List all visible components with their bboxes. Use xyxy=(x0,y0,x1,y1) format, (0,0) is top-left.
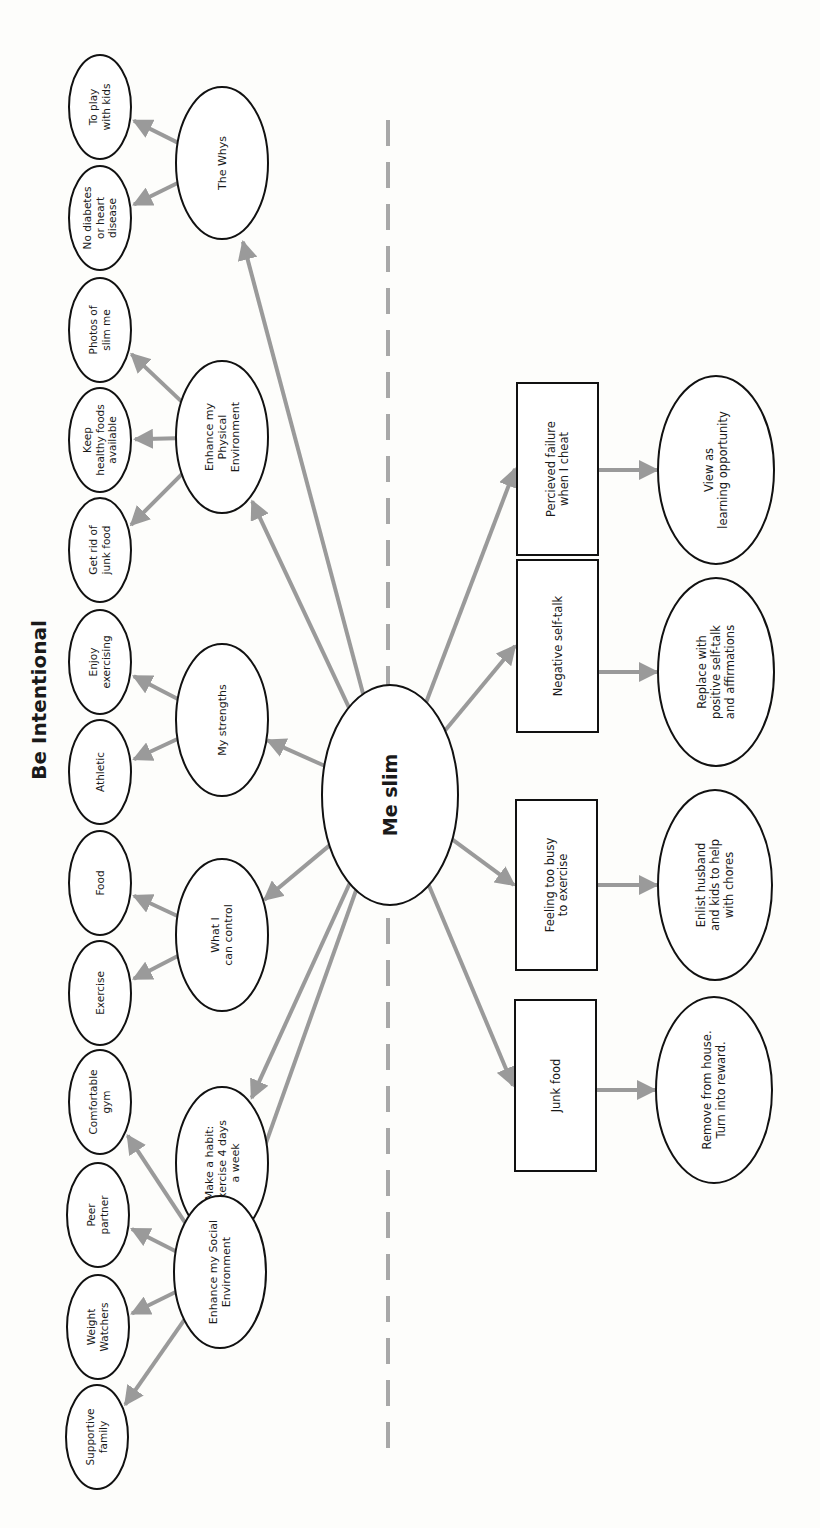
node-text-line: Make a habit: xyxy=(203,1126,216,1200)
node-text-line: gym xyxy=(100,1090,112,1113)
node-text-line: View as xyxy=(702,448,716,492)
leaf-node-enhance-physical-0-label: Photos ofslim me xyxy=(87,305,111,354)
mind-map-canvas: Be Intentional The WhysTo playwith kidsN… xyxy=(0,0,820,1528)
node-text-line: Get rid of xyxy=(87,525,99,575)
node-text-line: Environment xyxy=(229,401,242,472)
node-text-line: and affirmations xyxy=(723,625,737,719)
node-text-line: What I xyxy=(209,917,222,953)
leaf-node-what-i-can-control-1-label: Exercise xyxy=(94,971,106,1015)
edge-enhance-physical-to-leaf-1 xyxy=(135,438,176,439)
edge-my-strengths-to-leaf-1 xyxy=(134,739,177,759)
node-text-line: Environment xyxy=(220,1236,233,1307)
node-text-line: disease xyxy=(106,198,118,238)
node-text-line: Me slim xyxy=(379,754,401,837)
node-text-line: Exercise 4 days xyxy=(216,1120,229,1206)
edge-enhance-social-to-leaf-1 xyxy=(132,1229,176,1251)
mind-map-diagram: Be Intentional The WhysTo playwith kidsN… xyxy=(0,0,820,1528)
node-text-line: available xyxy=(106,416,118,463)
node-text-line: family xyxy=(97,1421,109,1453)
node-text-line: Watchers xyxy=(98,1303,110,1352)
node-text-line: Turn into reward. xyxy=(714,1041,728,1139)
edge-center-to-perceived-failure xyxy=(426,469,515,702)
leaf-node-enhance-physical-2-label: Get rid ofjunk food xyxy=(87,525,111,575)
edge-center-to-junk-food xyxy=(429,885,513,1085)
node-text-line: To play xyxy=(87,89,99,127)
node-text-line: Enjoy xyxy=(87,648,99,677)
node-text-line: Peer xyxy=(85,1203,97,1227)
node-text-line: exercising xyxy=(100,635,112,688)
node-text-line: Enhance my Social xyxy=(207,1220,220,1324)
node-text-line: when I cheat xyxy=(557,432,571,506)
node-text-line: partner xyxy=(98,1195,110,1235)
node-text-line: Junk food xyxy=(549,1059,563,1114)
edge-center-to-enhance-physical xyxy=(252,501,349,707)
node-text-line: The Whys xyxy=(216,136,229,191)
node-text-line: Food xyxy=(94,870,106,895)
edge-center-to-feeling-too-busy xyxy=(452,839,514,885)
node-text-line: slim me xyxy=(100,309,112,351)
edge-enhance-physical-to-leaf-0 xyxy=(131,354,181,401)
node-text-line: Athletic xyxy=(94,752,106,792)
node-text-line: Comfortable xyxy=(87,1069,99,1134)
node-text-line: with kids xyxy=(100,84,112,131)
solution-node-negative-self-talk-label: Replace withpositive self-talkand affirm… xyxy=(695,625,736,719)
edge-center-to-what-i-can-control xyxy=(264,845,329,899)
node-text-line: Replace with xyxy=(695,635,709,709)
node-text-line: can control xyxy=(222,904,235,965)
node-text-line: Keep xyxy=(81,427,93,453)
edge-what-i-can-control-to-leaf-1 xyxy=(134,956,178,979)
node-text-line: Percieved failure xyxy=(544,421,558,517)
node-the-whys-label: The Whys xyxy=(216,136,229,191)
obstacle-box-junk-food-label: Junk food xyxy=(549,1059,563,1114)
node-text-line: Supportive xyxy=(84,1408,96,1465)
node-text-line: Enlist husband xyxy=(694,843,708,928)
node-text-line: learning opportunity xyxy=(716,411,730,529)
edge-the-whys-to-leaf-0 xyxy=(134,121,178,143)
node-text-line: with chores xyxy=(722,852,736,918)
edge-enhance-physical-to-leaf-2 xyxy=(131,474,182,525)
solution-node-feeling-too-busy-label: Enlist husbandand kids to helpwith chore… xyxy=(694,839,735,931)
center-node-label: Me slim xyxy=(379,754,401,837)
node-text-line: healthy foods xyxy=(94,404,106,475)
edge-my-strengths-to-leaf-0 xyxy=(134,676,178,699)
diagram-title: Be Intentional xyxy=(27,620,51,780)
leaf-node-my-strengths-1-label: Athletic xyxy=(94,752,106,792)
node-text-line: or heart xyxy=(94,197,106,239)
node-text-line: junk food xyxy=(100,526,112,576)
node-text-line: to exercise xyxy=(556,854,570,917)
obstacle-box-negative-self-talk-label: Negative self-talk xyxy=(551,595,565,696)
obstacle-box-perceived-failure-label: Percieved failurewhen I cheat xyxy=(544,421,572,517)
node-text-line: and kids to help xyxy=(708,839,722,931)
edge-center-to-my-strengths xyxy=(268,740,325,765)
node-text-line: Photos of xyxy=(87,305,99,354)
node-text-line: Remove from house. xyxy=(700,1030,714,1149)
node-text-line: Weight xyxy=(85,1309,97,1346)
node-text-line: Negative self-talk xyxy=(551,595,565,696)
node-text-line: No diabetes xyxy=(81,187,93,250)
leaf-node-what-i-can-control-0-label: Food xyxy=(94,870,106,895)
node-text-line: Physical xyxy=(216,415,229,460)
node-my-strengths-label: My strengths xyxy=(216,684,229,756)
edge-enhance-social-to-leaf-2 xyxy=(132,1292,176,1313)
edge-what-i-can-control-to-leaf-0 xyxy=(134,896,177,916)
edge-center-to-negative-self-talk xyxy=(445,646,515,730)
node-text-line: Feeling too busy xyxy=(543,838,557,933)
nodes-layer: The WhysTo playwith kidsNo diabetesor he… xyxy=(66,55,774,1489)
leaf-node-the-whys-0-label: To playwith kids xyxy=(87,84,111,131)
node-text-line: My strengths xyxy=(216,684,229,756)
solution-node-junk-food-label: Remove from house.Turn into reward. xyxy=(700,1030,728,1149)
node-text-line: a week xyxy=(229,1143,242,1183)
edge-the-whys-to-leaf-1 xyxy=(134,183,178,204)
leaf-node-enhance-social-2-label: WeightWatchers xyxy=(85,1303,109,1352)
node-text-line: Exercise xyxy=(94,971,106,1015)
node-text-line: positive self-talk xyxy=(709,625,723,719)
edge-enhance-social-to-leaf-3 xyxy=(125,1320,184,1405)
node-text-line: Enhance my xyxy=(203,402,216,471)
